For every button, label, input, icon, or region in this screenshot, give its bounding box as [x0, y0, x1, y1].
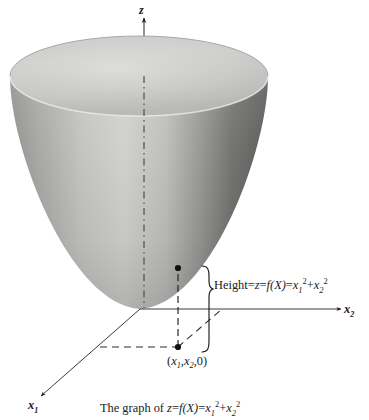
bp-close: ): [203, 354, 207, 368]
surface-point-dot: [175, 265, 181, 271]
height-eq-1: =: [248, 278, 255, 292]
paraboloid-figure: z x2 x1 Height=z=f(X)=x12+x22 (x1,x2,0) …: [0, 0, 369, 420]
base-point-dot: [175, 344, 181, 350]
base-axes: [41, 309, 341, 396]
figure-caption: The graph of z=f(X)=x12+x22: [100, 400, 240, 417]
x2-axis-label: x2: [344, 303, 354, 319]
height-term2-sub: 2: [319, 285, 323, 295]
caption-term1-sub: 1: [211, 408, 215, 418]
caption-term2-sub: 2: [232, 408, 236, 418]
height-annotation: Height=z=f(X)=x12+x22: [214, 277, 328, 294]
caption-arg: (X): [182, 401, 198, 415]
height-eq-2: =: [260, 278, 267, 292]
caption-term2-sup: 2: [236, 399, 240, 409]
z-axis-label: z: [139, 4, 144, 16]
x1-axis-line: [41, 309, 140, 396]
paraboloid-surface: [10, 36, 268, 310]
base-point-label: (x1,x2,0): [167, 355, 207, 370]
base-line-parallel-x1: [178, 309, 222, 347]
height-term2-sup: 2: [324, 276, 328, 286]
height-word: Height: [214, 278, 248, 292]
height-arg: (X): [270, 278, 286, 292]
caption-eq-1: =: [172, 401, 179, 415]
height-plus: +: [307, 278, 314, 292]
x1-axis-label: x1: [28, 399, 38, 415]
height-term1-sub: 1: [298, 285, 302, 295]
height-eq-3: =: [286, 278, 293, 292]
caption-lead: The graph of: [100, 401, 164, 415]
